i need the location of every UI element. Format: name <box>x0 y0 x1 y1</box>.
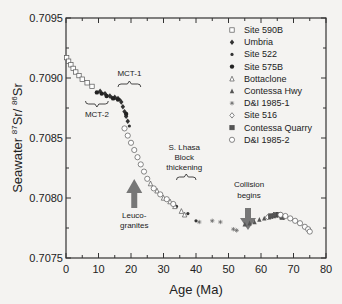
marker <box>111 96 115 100</box>
y-tick-label: 0.7085 <box>29 132 63 144</box>
y-tick-labels: 0.70750.70800.70850.70900.7095 <box>29 12 63 264</box>
legend-label: Site 590B <box>244 25 283 35</box>
x-tick-label: 80 <box>320 263 332 275</box>
marker <box>126 119 130 124</box>
marker <box>278 212 283 217</box>
y-tick-label: 0.7090 <box>29 72 63 84</box>
legend-item: D&I 1985-1 <box>230 98 290 108</box>
annotation-mct2: MCT-2 <box>85 101 110 119</box>
marker <box>288 216 293 221</box>
annotation-mct1: MCT-1 <box>117 69 142 87</box>
marker <box>197 220 201 224</box>
marker <box>135 155 140 160</box>
annotation-label: Collision <box>234 180 264 189</box>
marker <box>128 124 131 127</box>
marker <box>230 28 234 32</box>
legend-item: Contessa Quarry <box>230 123 313 133</box>
marker <box>90 84 94 88</box>
marker <box>122 126 127 131</box>
marker <box>297 221 302 226</box>
marker <box>141 169 146 174</box>
x-tick-label: 40 <box>190 263 202 275</box>
marker <box>186 212 189 215</box>
annotation-lhasa: S. LhasaBlockthickening <box>166 143 202 180</box>
marker <box>104 94 108 98</box>
marker <box>283 213 288 218</box>
marker <box>158 192 163 197</box>
legend-item: Site 516 <box>230 110 277 120</box>
legend-label: D&I 1985-1 <box>244 98 290 108</box>
x-tick-label: 20 <box>125 263 137 275</box>
marker <box>148 181 152 186</box>
legend-item: Site 522 <box>230 49 277 59</box>
legend-item: Umbria <box>230 37 273 47</box>
x-tick-label: 70 <box>287 263 299 275</box>
legend-item: Site 590B <box>230 25 283 35</box>
marker <box>230 101 234 105</box>
legend-item: Bottaclone <box>230 74 287 84</box>
marker <box>171 201 176 206</box>
marker <box>95 90 99 94</box>
brace-icon <box>118 81 141 87</box>
marker <box>100 91 104 95</box>
y-axis-title: Seawater 87Sr/ 86Sr <box>10 83 25 193</box>
arrow-down-icon <box>240 208 256 230</box>
annotation-label: granites <box>120 221 148 230</box>
x-tick-labels: 01020304050607080 <box>63 263 332 275</box>
brace-icon <box>177 174 197 180</box>
brace-icon <box>86 101 109 107</box>
series-d-i-1985-1 <box>197 219 239 233</box>
marker <box>230 88 234 93</box>
marker <box>145 176 150 181</box>
annotation-label: Leuco- <box>122 211 147 220</box>
marker <box>229 137 234 142</box>
legend-label: Site 516 <box>244 110 277 120</box>
legend-label: Umbria <box>244 37 273 47</box>
strontium-isotope-chart: 0.70750.70800.70850.70900.7095 010203040… <box>0 0 342 304</box>
marker <box>124 112 128 116</box>
legend-label: D&I 1985-2 <box>244 135 290 145</box>
marker <box>230 40 234 45</box>
marker <box>230 53 233 56</box>
marker <box>307 229 312 234</box>
x-tick-label: 60 <box>255 263 267 275</box>
marker <box>257 217 261 222</box>
x-tick-label: 10 <box>92 263 104 275</box>
annotation-label: Block <box>174 153 195 162</box>
marker <box>230 76 234 81</box>
y-tick-label: 0.7080 <box>29 192 63 204</box>
y-tick-label: 0.7075 <box>29 252 63 264</box>
marker <box>210 219 214 223</box>
legend-label: Contessa Hwy <box>244 86 303 96</box>
legend-item: Contessa Hwy <box>230 86 303 96</box>
legend-label: Bottaclone <box>244 74 287 84</box>
legend-label: Contessa Quarry <box>244 123 313 133</box>
marker <box>116 97 120 101</box>
legend-label: Site 575B <box>244 62 283 72</box>
annotation-label: MCT-2 <box>85 110 110 119</box>
x-axis-title: Age (Ma) <box>169 282 222 297</box>
arrow-up-icon <box>126 179 142 208</box>
y-tick-label: 0.7095 <box>29 12 63 24</box>
marker <box>230 64 234 68</box>
x-tick-label: 30 <box>157 263 169 275</box>
legend-item: Site 575B <box>230 62 283 72</box>
marker <box>230 113 234 118</box>
marker <box>293 218 298 223</box>
marker <box>125 133 130 138</box>
marker <box>138 162 143 167</box>
marker <box>218 220 222 224</box>
marker <box>128 140 133 145</box>
annotation-label: begins <box>237 191 261 200</box>
legend-item: D&I 1985-2 <box>229 135 289 145</box>
annotation-label: MCT-1 <box>117 69 142 78</box>
series-site-590b <box>64 55 94 88</box>
marker <box>269 214 273 218</box>
x-tick-label: 0 <box>63 263 69 275</box>
legend-label: Site 522 <box>244 49 277 59</box>
legend: Site 590BUmbriaSite 522Site 575BBottaclo… <box>229 25 312 145</box>
marker <box>179 209 183 214</box>
marker <box>132 147 137 152</box>
marker <box>80 77 84 81</box>
x-tick-label: 50 <box>222 263 234 275</box>
